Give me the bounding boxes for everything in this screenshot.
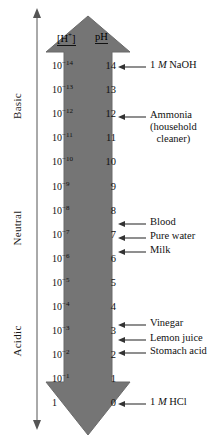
hydrogen-concentration-value: 10−13 [52,84,92,95]
hydrogen-concentration-value: 10−6 [52,253,92,264]
ph-value: 11 [94,132,116,143]
ph-scale-row: 10−66 [52,253,122,267]
ph-scale-row: 10−1010 [52,156,122,170]
callout-label: Pure water [150,230,195,242]
hydrogen-concentration-value: 10−12 [52,108,92,119]
callout-arrow-icon [118,352,146,354]
ph-scale-row: 10−1313 [52,84,122,98]
ph-value: 8 [94,205,116,216]
ph-value: 12 [94,108,116,119]
callout-arrow-icon [118,237,146,239]
ph-value: 3 [94,325,116,336]
axis-label-acidic: Acidic [11,296,23,386]
callout-arrow-icon [118,251,146,253]
ph-value: 6 [94,253,116,264]
callout-arrow-icon [118,339,146,341]
hydrogen-concentration-value: 10−7 [52,229,92,240]
callout-label: Ammonia(householdcleaner) [150,109,197,145]
ph-scale-row: 10−99 [52,181,122,195]
callout-label: Blood [150,216,176,228]
ph-scale-row: 10−33 [52,325,122,339]
callout-arrow-icon [118,66,146,68]
callout-label: 1 M HCl [150,396,187,408]
ph-value: 7 [94,229,116,240]
ph-scale-row: 10−22 [52,349,122,363]
hydrogen-concentration-value: 10−14 [52,60,92,71]
ph-scale-row: 10−88 [52,205,122,219]
callout-label: Stomach acid [150,345,207,357]
ph-scale-row: 10−44 [52,301,122,315]
hydrogen-concentration-value: 10−11 [52,132,92,143]
hydrogen-concentration-value: 10−9 [52,181,92,192]
hydrogen-concentration-value: 10−10 [52,156,92,167]
callout-label: 1 M NaOH [150,59,197,71]
callout-arrow-icon [118,403,146,405]
ph-scale-row: 10−1111 [52,132,122,146]
ph-value: 4 [94,301,116,312]
ph-scale-row: 10−11 [52,373,122,387]
hydrogen-concentration-value: 10−1 [52,373,92,384]
ph-value: 14 [94,60,116,71]
column-header-concentration: [H+] [57,31,76,46]
ph-scale-row: 10 [52,397,122,411]
hydrogen-concentration-value: 1 [52,397,92,408]
ph-value: 10 [94,156,116,167]
ph-scale-row: 10−55 [52,277,122,291]
hydrogen-concentration-value: 10−4 [52,301,92,312]
ph-scale-diagram: Basic Neutral Acidic [H+] pH 10−141410−1… [0,0,212,437]
ph-value: 2 [94,349,116,360]
callout-label: Vinegar [150,317,183,329]
ph-value: 9 [94,181,116,192]
hydrogen-concentration-value: 10−8 [52,205,92,216]
hydrogen-concentration-value: 10−2 [52,349,92,360]
column-header-ph: pH [95,31,108,44]
ph-value: 5 [94,277,116,288]
callout-arrow-icon [118,223,146,225]
callout-arrow-icon [118,116,146,118]
ph-value: 0 [94,397,116,408]
column-header-concentration-text: [H+] [57,31,76,46]
ph-scale-row: 10−77 [52,229,122,243]
callout-label: Milk [150,244,170,256]
hydrogen-concentration-value: 10−3 [52,325,92,336]
ph-value: 1 [94,373,116,384]
ph-value: 13 [94,84,116,95]
callout-arrow-icon [118,324,146,326]
callout-label: Lemon juice [150,332,203,344]
axis-label-basic: Basic [11,61,23,151]
ph-scale-row: 10−1414 [52,60,122,74]
ph-scale-row: 10−1212 [52,108,122,122]
axis-label-neutral: Neutral [11,183,23,273]
column-header-ph-text: pH [95,31,108,44]
hydrogen-concentration-value: 10−5 [52,277,92,288]
